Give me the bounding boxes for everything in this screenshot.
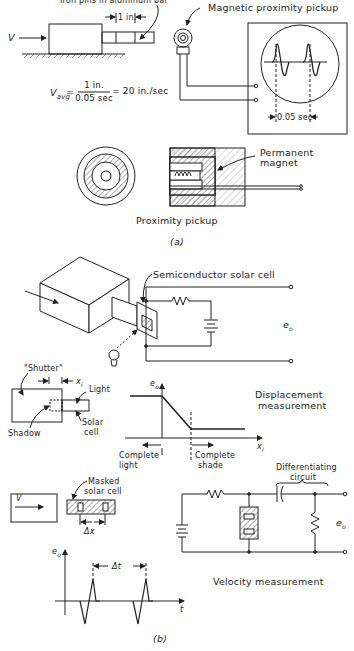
label-v-b: V	[16, 493, 22, 504]
label-delta-t: Δt	[112, 561, 121, 572]
label-t-axis: t	[180, 604, 183, 615]
label-light: Light	[89, 384, 110, 395]
label-shadow: Shadow	[8, 428, 41, 439]
label-delta-x: Δx	[84, 526, 95, 537]
formula-equals: =	[66, 86, 74, 97]
formula-numerator: 1 in.	[78, 80, 110, 91]
label-semiconductor-solar-cell: Semiconductor solar cell	[153, 269, 275, 280]
label-velocity-v: V	[8, 32, 15, 43]
label-circuit: circuit	[290, 472, 316, 483]
label-displacement: Displacement	[255, 389, 323, 400]
label-eo-axis: eo	[150, 378, 159, 392]
label-solar-cell: solar cell	[84, 486, 122, 497]
label-eo-velocity: eo	[336, 517, 346, 532]
label-iron-pins: Iron pins in aluminum bar	[60, 0, 168, 6]
label-scope-interval: 0.05 sec	[277, 112, 312, 123]
label-magnet: magnet	[260, 157, 298, 168]
label-velocity-measurement: Velocity measurement	[213, 576, 324, 587]
label-1-inch: 1 in.	[118, 12, 136, 23]
shutter	[12, 389, 62, 422]
label-xi-axis: xi	[257, 441, 264, 455]
label-shutter: "Shutter"	[24, 363, 63, 374]
label-proximity-pickup: Proximity pickup	[136, 215, 218, 226]
formula-result: = 20 in./sec	[112, 86, 168, 97]
label-xi: xi	[76, 376, 83, 390]
caption-b: (b)	[153, 633, 167, 644]
label-complete-light-2: light	[119, 460, 138, 471]
caption-a: (a)	[170, 236, 184, 247]
moving-block	[49, 24, 102, 54]
label-cell: cell	[84, 427, 99, 438]
label-magnetic-pickup: Magnetic proximity pickup	[208, 2, 338, 13]
label-eo-pulse: eo	[52, 546, 61, 560]
solar-cell	[62, 400, 89, 411]
label-eo-top: eo	[283, 319, 293, 334]
formula-denominator: 0.05 sec	[74, 93, 114, 104]
label-complete-shade-2: shade	[198, 460, 223, 471]
label-measurement: measurement	[258, 400, 326, 411]
